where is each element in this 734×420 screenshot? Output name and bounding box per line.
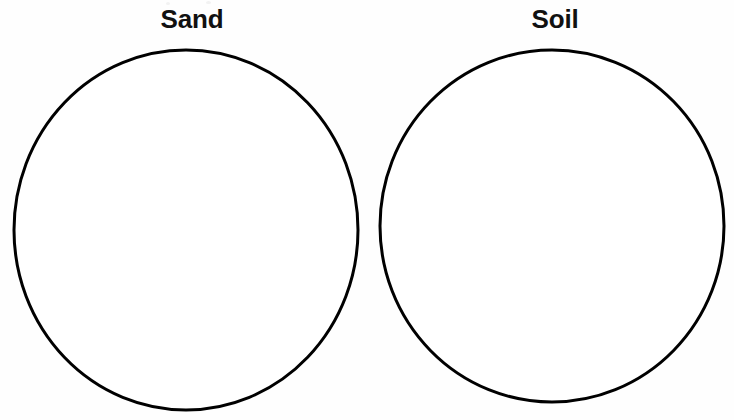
circle-label-soil: Soil (455, 4, 655, 34)
circle-label-sand: Sand (92, 4, 292, 34)
circles-diagram (0, 0, 734, 420)
worksheet-canvas: Sand Soil (0, 0, 734, 420)
circle-soil[interactable] (380, 50, 724, 402)
circle-sand[interactable] (14, 50, 358, 410)
